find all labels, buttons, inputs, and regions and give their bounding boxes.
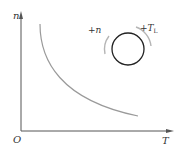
x-axis-label: T bbox=[162, 135, 170, 146]
torque-label-main: +T bbox=[140, 23, 155, 33]
speed-direction-arrow-icon bbox=[104, 36, 109, 54]
torque-label-subscript: L bbox=[154, 27, 158, 34]
characteristic-curve bbox=[40, 24, 138, 116]
torque-direction-label: +TL bbox=[140, 23, 158, 34]
y-axis-arrowhead-icon bbox=[19, 11, 23, 19]
speed-direction-label: +n bbox=[88, 25, 102, 35]
diagram-canvas: n O T +n +TL bbox=[0, 0, 183, 152]
rotor-circle bbox=[112, 33, 144, 65]
x-axis-arrowhead-icon bbox=[166, 129, 174, 133]
y-axis-label: n bbox=[13, 10, 19, 21]
origin-label: O bbox=[13, 134, 21, 145]
